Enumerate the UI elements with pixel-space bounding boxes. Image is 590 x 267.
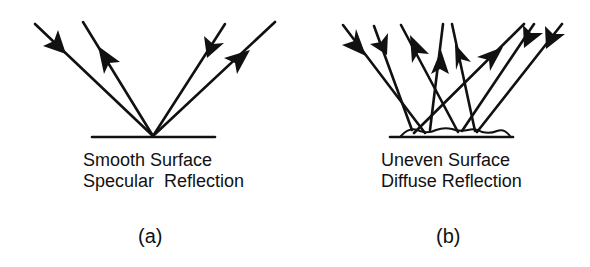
arrowhead-icon: [98, 46, 120, 74]
arrowhead-icon: [431, 50, 449, 74]
arrowhead-icon: [455, 44, 471, 70]
surface-label-b: Uneven Surface: [381, 150, 510, 171]
reflection-diagram: [0, 0, 590, 267]
incident-ray: [374, 26, 412, 130]
caption-b: (b): [436, 225, 460, 248]
arrowhead-icon: [342, 29, 366, 56]
reflection-label-b: Diffuse Reflection: [381, 171, 522, 192]
specular-diagram: [35, 22, 275, 137]
arrowhead-icon: [523, 25, 543, 48]
arrowhead-icon: [545, 26, 565, 49]
arrowheads-a: [43, 30, 250, 74]
arrowhead-icon: [224, 50, 250, 74]
reflection-label-a: Specular Reflection: [83, 171, 244, 192]
surface-label-a: Smooth Surface: [83, 150, 212, 171]
caption-a: (a): [138, 225, 162, 248]
